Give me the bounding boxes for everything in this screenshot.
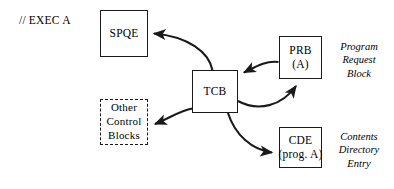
edge-prb-to-tcb — [244, 62, 279, 73]
caption-cde-line3: Entry — [329, 157, 389, 170]
caption-cde-line1: Contents — [329, 130, 389, 143]
node-other-control-blocks[interactable]: Other Control Blocks — [100, 99, 148, 145]
node-other-control-blocks-label-line2: Control — [106, 115, 141, 129]
node-spqe-label: SPQE — [110, 27, 139, 40]
node-spqe[interactable]: SPQE — [100, 10, 148, 57]
diagram-canvas: // EXEC A SPQE TCB PRB (A) CDE (prog. A)… — [0, 0, 394, 189]
node-prb-label-line1: PRB — [289, 44, 311, 57]
node-prb[interactable]: PRB (A) — [279, 36, 322, 79]
edge-tcb-to-prb — [238, 86, 296, 106]
node-other-control-blocks-label-line1: Other — [111, 101, 137, 115]
node-cde-label-line1: CDE — [289, 134, 313, 147]
caption-prb: Program Request Block — [329, 40, 389, 80]
node-prb-label-line2: (A) — [292, 58, 309, 71]
caption-cde: Contents Directory Entry — [329, 130, 389, 170]
node-tcb-label: TCB — [204, 85, 227, 98]
caption-cde-line2: Directory — [329, 143, 389, 156]
caption-prb-line3: Block — [329, 67, 389, 80]
caption-prb-line1: Program — [329, 40, 389, 53]
edge-tcb-to-other-control-blocks — [155, 109, 193, 125]
jcl-exec-statement-label: // EXEC A — [19, 14, 71, 26]
node-cde-label-line2: (prog. A) — [279, 148, 323, 161]
node-other-control-blocks-label-line3: Blocks — [108, 129, 140, 143]
edge-tcb-to-spqe — [154, 34, 213, 71]
edge-tcb-to-cde — [228, 113, 272, 153]
node-cde[interactable]: CDE (prog. A) — [279, 127, 322, 168]
node-tcb[interactable]: TCB — [192, 70, 238, 113]
caption-prb-line2: Request — [329, 53, 389, 66]
